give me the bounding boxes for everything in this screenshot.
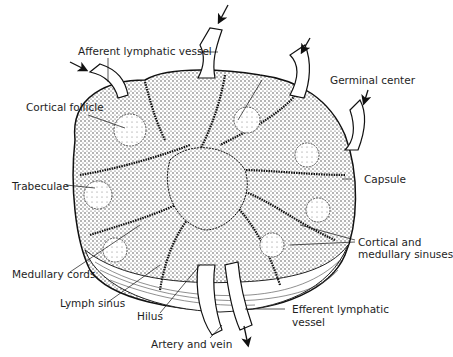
label-cortical-and: Cortical and <box>358 236 421 248</box>
label-efferent-lymphatic: Efferent lymphatic <box>292 303 389 315</box>
label-cortical-follicle: Cortical follicle <box>26 101 104 113</box>
label-medullary-cords: Medullary cords <box>12 268 95 280</box>
label-trabeculae: Trabeculae <box>12 180 69 192</box>
label-medullary-sinuses: medullary sinuses <box>358 248 453 260</box>
label-hilus: Hilus <box>137 310 163 322</box>
label-germinal-center: Germinal center <box>330 74 415 86</box>
label-capsule: Capsule <box>364 173 406 185</box>
label-lymph-sinus: Lymph sinus <box>60 297 125 309</box>
label-afferent-lymphatic-vessel: Afferent lymphatic vessel <box>78 45 212 57</box>
label-efferent-vessel: vessel <box>292 316 325 328</box>
label-artery-and-vein: Artery and vein <box>151 338 232 350</box>
